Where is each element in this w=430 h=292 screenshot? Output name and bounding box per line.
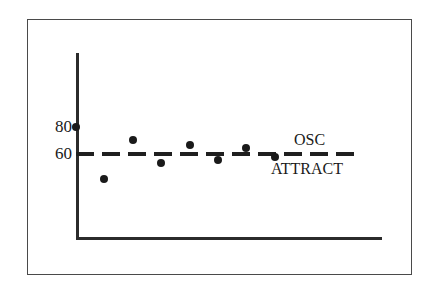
data-point: [186, 141, 194, 149]
figure-page: 80 60 OSC ATTRACT: [0, 0, 430, 292]
x-axis: [76, 237, 382, 240]
data-point: [72, 123, 80, 131]
attract-annotation-label: ATTRACT: [271, 161, 343, 177]
y-tick-label-60: 60: [38, 145, 72, 162]
data-point: [157, 159, 165, 167]
osc-annotation-label: OSC: [294, 132, 325, 148]
y-axis: [76, 53, 79, 239]
y-tick-label-80: 80: [38, 118, 72, 135]
data-point: [129, 136, 137, 144]
data-point: [214, 156, 222, 164]
data-point: [100, 175, 108, 183]
attractor-reference-line: [76, 152, 356, 156]
scatter-plot: 80 60 OSC ATTRACT: [0, 0, 430, 292]
data-point: [242, 144, 250, 152]
